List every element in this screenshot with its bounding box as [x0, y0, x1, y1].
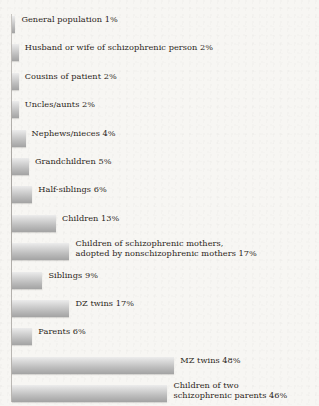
bar — [12, 130, 26, 147]
bar — [12, 158, 29, 175]
bar-label: Children of two schizophrenic parents 46… — [173, 381, 287, 400]
bar-row: Siblings 9% — [0, 272, 319, 289]
bar — [12, 101, 19, 118]
bar — [12, 215, 56, 232]
bar-label: Nephews/nieces 4% — [32, 129, 116, 139]
bar-row: MZ twins 48% — [0, 357, 319, 374]
bar-label: General population 1% — [21, 15, 117, 25]
bar — [12, 44, 19, 61]
bar — [12, 73, 19, 90]
bar — [12, 357, 174, 374]
bar-label: MZ twins 48% — [180, 356, 240, 366]
bar-row: General population 1% — [0, 16, 319, 33]
bar-row: Parents 6% — [0, 328, 319, 345]
bar — [12, 385, 167, 402]
bar-label: Children of schizophrenic mothers, adopt… — [75, 239, 256, 258]
bar-label: Children 13% — [62, 214, 119, 224]
bar-row: Children of two schizophrenic parents 46… — [0, 385, 319, 402]
schizophrenia-risk-bar-chart: General population 1%Husband or wife of … — [0, 0, 319, 406]
bar-row: Children of schizophrenic mothers, adopt… — [0, 243, 319, 260]
bar — [12, 328, 32, 345]
bar-row: Half-siblings 6% — [0, 186, 319, 203]
bar-row: Grandchildren 5% — [0, 158, 319, 175]
bar — [12, 300, 69, 317]
bar-row: Husband or wife of schizophrenic person … — [0, 44, 319, 61]
bar — [12, 243, 69, 260]
bar — [12, 16, 15, 33]
bar-row: DZ twins 17% — [0, 300, 319, 317]
bar — [12, 272, 42, 289]
bar-row: Uncles/aunts 2% — [0, 101, 319, 118]
bar-row: Cousins of patient 2% — [0, 73, 319, 90]
bar-label: Siblings 9% — [48, 271, 98, 281]
bar-label: Husband or wife of schizophrenic person … — [25, 43, 213, 53]
bar-label: Half-siblings 6% — [38, 185, 107, 195]
bar-label: Parents 6% — [38, 327, 86, 337]
bar-label: DZ twins 17% — [75, 299, 134, 309]
bar-label: Cousins of patient 2% — [25, 72, 117, 82]
bar-label: Grandchildren 5% — [35, 157, 112, 167]
bar-row: Children 13% — [0, 215, 319, 232]
bar-row: Nephews/nieces 4% — [0, 130, 319, 147]
bar-label: Uncles/aunts 2% — [25, 100, 95, 110]
bar — [12, 186, 32, 203]
cut-off-chart-title — [0, 0, 319, 4]
